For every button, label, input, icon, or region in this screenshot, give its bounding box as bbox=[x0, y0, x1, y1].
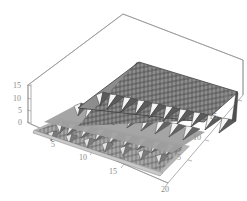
z-tick-label-10: 10 bbox=[13, 95, 21, 103]
surface-plot-figure: 15 10 5 0 5 10 15 20 20 15 10 5 bbox=[0, 0, 247, 201]
y-tick-label-10: 10 bbox=[193, 134, 201, 142]
x-tick-label-20: 20 bbox=[161, 186, 169, 194]
z-tick-label-0: 0 bbox=[18, 119, 22, 127]
y-tick-label-5: 5 bbox=[177, 154, 181, 162]
surface-plot-canvas bbox=[0, 0, 247, 201]
x-tick-label-15: 15 bbox=[109, 168, 117, 176]
y-tick-label-20: 20 bbox=[220, 93, 228, 101]
z-tick-label-5: 5 bbox=[18, 107, 22, 115]
y-tick-label-15: 15 bbox=[209, 113, 217, 121]
z-tick-label-15: 15 bbox=[13, 82, 21, 90]
x-tick-label-5: 5 bbox=[51, 141, 55, 149]
z-axis-line bbox=[31, 84, 37, 124]
x-tick-label-10: 10 bbox=[79, 154, 87, 162]
